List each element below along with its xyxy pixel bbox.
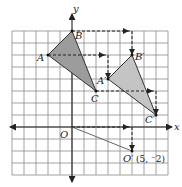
vertex-point — [107, 78, 110, 81]
vertex-point — [71, 30, 74, 33]
vertex-point — [155, 114, 158, 117]
label-origin: O — [60, 129, 68, 140]
vertex-point — [47, 54, 50, 57]
label-b: B — [74, 30, 82, 41]
label-x-axis: x — [174, 121, 180, 132]
label-y-axis: y — [72, 3, 79, 14]
translation-diagram: ABCA′B′C′OxyO′(5, ⁻2) — [0, 0, 182, 187]
label-a: A — [36, 52, 44, 63]
label-b-prime: B′ — [134, 51, 145, 62]
label-origin-prime-coords: (5, ⁻2) — [136, 154, 165, 164]
vertex-point — [131, 54, 134, 57]
label-origin-prime: O′ — [123, 153, 134, 164]
label-c-prime: C′ — [145, 114, 156, 125]
label-a-prime: A′ — [96, 75, 107, 86]
label-c: C — [91, 93, 99, 104]
